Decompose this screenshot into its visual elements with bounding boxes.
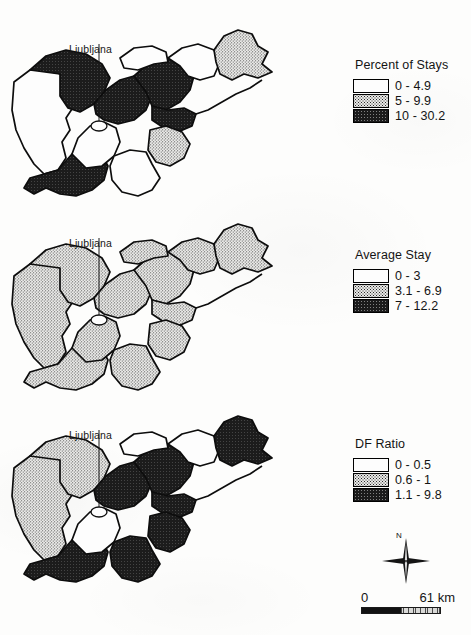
scale-bar-max-label: 61 km (420, 590, 455, 605)
slovenia-map-average-stay[interactable] (0, 212, 340, 407)
map-panel-df-ratio: Ljubljana (0, 404, 340, 604)
region-east-outline[interactable] (196, 274, 262, 308)
map-panel-average-stay: Ljubljana (0, 212, 340, 407)
scale-bar-segment-filled (362, 608, 401, 613)
legend-swatch-light (353, 79, 389, 93)
legend-title: Percent of Stays (355, 58, 448, 72)
legend-class-label: 3.1 - 6.9 (395, 284, 442, 298)
legend-rows: 0 - 3 3.1 - 6.9 7 - 12.2 (353, 268, 442, 313)
figure-page: Ljubljana Ljubljana (0, 0, 471, 635)
ljubljana-enclave (91, 507, 107, 517)
region-jugovzhodna[interactable] (148, 512, 190, 552)
legend-class-label: 5 - 9.9 (395, 94, 431, 108)
legend-rows: 0 - 4.9 5 - 9.9 10 - 30.2 (353, 78, 448, 123)
legend-swatch-light (353, 269, 389, 283)
ljubljana-enclave (91, 315, 107, 325)
slovenia-map-df-ratio[interactable] (0, 404, 340, 604)
legend-row[interactable]: 0 - 0.5 (353, 457, 442, 472)
legend-df-ratio: DF Ratio 0 - 0.5 0.6 - 1 1.1 - 9.8 (353, 437, 442, 502)
city-label-ljubljana-map3: Ljubljana (69, 429, 112, 441)
region-pomurska[interactable] (214, 30, 272, 80)
legend-swatch-dark (353, 299, 389, 313)
slovenia-map-percent-of-stays[interactable] (0, 18, 340, 213)
region-pomurska[interactable] (214, 416, 272, 466)
region-jugovzhodna[interactable] (148, 320, 190, 360)
scale-bar-graphic (361, 607, 441, 614)
legend-class-label: 0 - 3 (395, 269, 421, 283)
legend-row[interactable]: 1.1 - 9.8 (353, 487, 442, 502)
legend-row[interactable]: 7 - 12.2 (353, 298, 442, 313)
legend-class-label: 1.1 - 9.8 (395, 488, 442, 502)
legend-swatch-dark (353, 109, 389, 123)
region-east-outline[interactable] (196, 466, 262, 500)
region-pomurska[interactable] (214, 224, 272, 274)
legend-class-label: 0 - 0.5 (395, 458, 431, 472)
legend-swatch-light (353, 458, 389, 472)
scale-bar-labels: 0 61 km (361, 590, 455, 606)
legend-title: Average Stay (355, 248, 442, 262)
scale-bar: 0 61 km (361, 590, 455, 614)
legend-class-label: 7 - 12.2 (395, 299, 438, 313)
legend-row[interactable]: 5 - 9.9 (353, 93, 448, 108)
ljubljana-enclave (91, 121, 107, 131)
legend-swatch-stipple (353, 473, 389, 487)
legend-swatch-stipple (353, 94, 389, 108)
region-east-outline[interactable] (196, 80, 262, 114)
city-label-ljubljana-map1: Ljubljana (69, 43, 112, 55)
legend-title: DF Ratio (355, 437, 442, 451)
legend-row[interactable]: 0 - 4.9 (353, 78, 448, 93)
legend-class-label: 10 - 30.2 (395, 109, 445, 123)
legend-class-label: 0.6 - 1 (395, 473, 431, 487)
city-label-ljubljana-map2: Ljubljana (69, 237, 112, 249)
legend-swatch-stipple (353, 284, 389, 298)
scale-bar-min-label: 0 (361, 590, 368, 605)
legend-row[interactable]: 10 - 30.2 (353, 108, 448, 123)
compass-star-icon (382, 536, 430, 586)
legend-rows: 0 - 0.5 0.6 - 1 1.1 - 9.8 (353, 457, 442, 502)
legend-row[interactable]: 0.6 - 1 (353, 472, 442, 487)
legend-row[interactable]: 3.1 - 6.9 (353, 283, 442, 298)
map-panel-percent-of-stays: Ljubljana (0, 18, 340, 213)
region-jugovzhodna[interactable] (148, 126, 190, 166)
legend-percent-of-stays: Percent of Stays 0 - 4.9 5 - 9.9 10 - 30… (353, 58, 448, 123)
legend-class-label: 0 - 4.9 (395, 79, 431, 93)
legend-average-stay: Average Stay 0 - 3 3.1 - 6.9 7 - 12.2 (353, 248, 442, 313)
legend-row[interactable]: 0 - 3 (353, 268, 442, 283)
legend-swatch-dark (353, 488, 389, 502)
scale-bar-segment-hatched (401, 608, 440, 613)
